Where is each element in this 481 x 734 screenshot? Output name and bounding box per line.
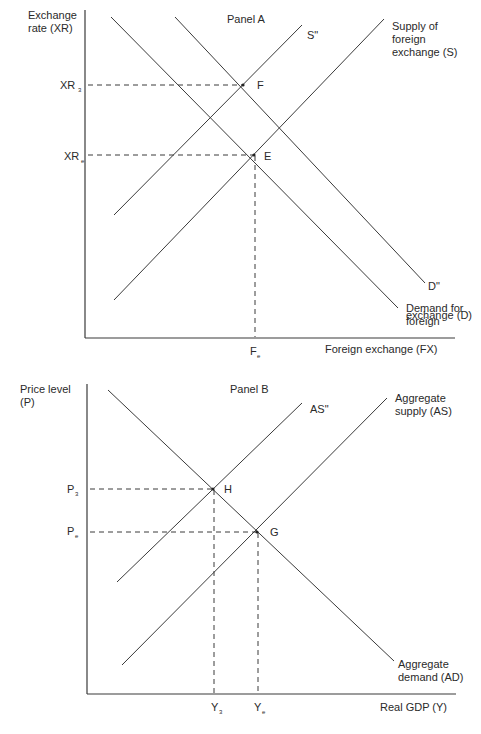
point-e-label: E bbox=[264, 150, 271, 162]
svg-text:Y: Y bbox=[211, 701, 219, 713]
panel-b-y-axis-label-line1: Price level bbox=[20, 383, 71, 395]
aggregate-demand-curve bbox=[108, 390, 394, 661]
as2-curve-label: AS" bbox=[310, 403, 329, 415]
panel-b-x-axis-label: Real GDP (Y) bbox=[380, 701, 447, 713]
svg-text:3: 3 bbox=[78, 87, 82, 93]
point-f-label: F bbox=[257, 79, 264, 91]
panel-b-title: Panel B bbox=[230, 383, 269, 395]
as-curve-label: Aggregate supply (AS) bbox=[395, 392, 452, 417]
tick-xre: XR e bbox=[64, 150, 85, 164]
tick-ye: Y e bbox=[254, 701, 266, 715]
panel-b: Price level (P) Real GDP (Y) Panel B H G… bbox=[20, 383, 463, 715]
svg-text:3: 3 bbox=[75, 491, 79, 497]
svg-text:P: P bbox=[67, 483, 74, 495]
panel-a-title: Panel A bbox=[227, 13, 266, 25]
svg-text:Supply of: Supply of bbox=[392, 20, 439, 32]
tick-pe: P e bbox=[67, 525, 79, 539]
tick-fe: F e bbox=[250, 345, 261, 359]
svg-text:Aggregate: Aggregate bbox=[395, 392, 446, 404]
svg-text:XR: XR bbox=[64, 150, 79, 162]
svg-text:Aggregate: Aggregate bbox=[398, 658, 449, 670]
svg-text:exchange (D): exchange (D) bbox=[406, 309, 472, 321]
tick-y3: Y 3 bbox=[211, 701, 223, 715]
point-h-marker bbox=[211, 487, 214, 490]
svg-text:supply (AS): supply (AS) bbox=[395, 405, 452, 417]
svg-text:F: F bbox=[250, 345, 257, 357]
svg-text:e: e bbox=[257, 353, 261, 359]
point-e-marker bbox=[252, 153, 255, 156]
d2-curve-label: D" bbox=[428, 280, 440, 292]
svg-text:e: e bbox=[262, 709, 266, 715]
demand-curve-d2 bbox=[175, 17, 425, 283]
panel-a: Exchange rate (XR) Foreign exchange (FX)… bbox=[28, 9, 472, 359]
svg-text:Y: Y bbox=[254, 701, 262, 713]
tick-p3: P 3 bbox=[67, 483, 79, 497]
svg-text:P: P bbox=[67, 525, 74, 537]
s-curve-label: Supply of foreign exchange (S) bbox=[392, 20, 457, 58]
d-curve-label: Demand for foreign exchange (D) bbox=[406, 302, 472, 327]
point-f-marker bbox=[241, 83, 244, 86]
svg-text:exchange (S): exchange (S) bbox=[392, 46, 457, 58]
tick-xr3: XR 3 bbox=[60, 79, 82, 93]
diagram-canvas: Exchange rate (XR) Foreign exchange (FX)… bbox=[0, 0, 481, 734]
panel-b-y-axis-label-line2: (P) bbox=[20, 396, 35, 408]
svg-text:foreign: foreign bbox=[392, 33, 426, 45]
panel-a-y-axis-label-line1: Exchange bbox=[28, 9, 77, 21]
point-g-marker bbox=[255, 530, 258, 533]
supply-curve-s2 bbox=[114, 25, 302, 215]
svg-text:XR: XR bbox=[60, 79, 75, 91]
aggregate-supply-curve-as2 bbox=[117, 403, 302, 582]
point-g-label: G bbox=[270, 526, 279, 538]
svg-text:demand (AD): demand (AD) bbox=[398, 671, 463, 683]
ad-curve-label: Aggregate demand (AD) bbox=[398, 658, 463, 683]
panel-a-y-axis-label-line2: rate (XR) bbox=[28, 22, 73, 34]
s2-curve-label: S" bbox=[307, 29, 318, 41]
svg-text:e: e bbox=[75, 533, 79, 539]
panel-a-x-axis-label: Foreign exchange (FX) bbox=[325, 343, 438, 355]
svg-text:3: 3 bbox=[219, 709, 223, 715]
point-h-label: H bbox=[224, 483, 232, 495]
